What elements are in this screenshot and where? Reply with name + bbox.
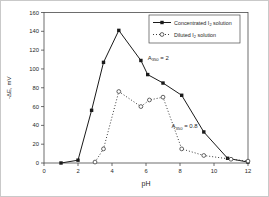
series-concentrated xyxy=(59,29,249,165)
x-tick-label: 10 xyxy=(211,168,217,174)
data-point-circle xyxy=(117,90,121,94)
data-point-circle xyxy=(102,147,106,151)
y-tick-label: 40 xyxy=(33,122,39,128)
x-tick-label: 8 xyxy=(178,168,181,174)
data-point-circle xyxy=(161,95,165,99)
data-point-square xyxy=(139,59,142,62)
data-point-square xyxy=(59,161,62,164)
y-tick-label: 80 xyxy=(33,85,39,91)
x-tick-label: 0 xyxy=(42,168,45,174)
y-tick-label: 160 xyxy=(29,10,39,16)
data-point-circle xyxy=(139,105,143,109)
line-chart: 024681012020406080100120140160 A350 = 2A… xyxy=(1,1,269,197)
y-tick-label: 60 xyxy=(33,104,39,110)
data-point-circle xyxy=(246,159,250,163)
data-point-square xyxy=(160,21,163,24)
data-point-circle xyxy=(93,160,97,164)
legend: Concentrated I2 solutionDiluted I2 solut… xyxy=(149,15,240,43)
y-axis-label: -ΔE, mV xyxy=(6,77,12,99)
data-point-square xyxy=(117,29,120,32)
absorbance-annotation: A350 = 0.8 xyxy=(172,123,199,131)
data-point-circle xyxy=(229,157,233,161)
y-tick-label: 140 xyxy=(29,28,39,34)
data-point-circle xyxy=(180,147,184,151)
annotation-layer: A350 = 2A350 = 0.8 xyxy=(148,55,199,131)
absorbance-annotation: A350 = 2 xyxy=(148,55,170,63)
x-tick-label: 2 xyxy=(76,168,79,174)
y-tick-label: 100 xyxy=(29,66,39,72)
data-point-circle xyxy=(160,33,164,37)
x-axis-label: pH xyxy=(142,180,151,188)
figure: 024681012020406080100120140160 A350 = 2A… xyxy=(0,0,269,197)
y-tick-label: 0 xyxy=(36,160,39,166)
data-point-square xyxy=(146,73,149,76)
series-line xyxy=(61,30,248,163)
data-point-square xyxy=(180,94,183,97)
data-point-square xyxy=(161,81,164,84)
y-tick-label: 20 xyxy=(33,141,39,147)
data-point-square xyxy=(102,61,105,64)
data-point-circle xyxy=(202,154,206,158)
y-tick-label: 120 xyxy=(29,47,39,53)
x-tick-label: 6 xyxy=(144,168,147,174)
data-point-circle xyxy=(148,98,152,102)
x-tick-label: 12 xyxy=(245,168,251,174)
data-series-layer xyxy=(59,29,250,165)
data-point-square xyxy=(76,158,79,161)
x-tick-label: 4 xyxy=(110,168,114,174)
data-point-square xyxy=(90,109,93,112)
data-point-square xyxy=(202,130,205,133)
